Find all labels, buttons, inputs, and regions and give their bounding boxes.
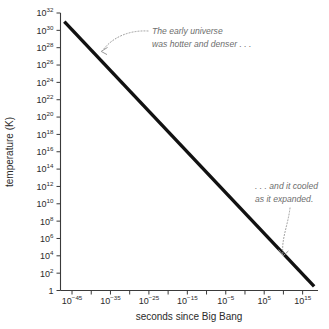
y-tick-label: 1: [48, 286, 53, 296]
temperature-vs-time-log-log-chart: 1032103010281026102410221020101810161014…: [0, 0, 329, 329]
x-axis-title: seconds since Big Bang: [136, 311, 243, 322]
annotation-early-universe-line2: was hotter and denser . . .: [152, 39, 251, 49]
annotation-cooled-expanded-line2: as it expanded.: [255, 194, 313, 204]
annotation-cooled-expanded-line1: . . . and it cooled: [255, 181, 318, 191]
chart-figure: 1032103010281026102410221020101810161014…: [0, 0, 329, 329]
y-axis-title: temperature (K): [4, 117, 15, 187]
annotation-early-universe-line1: The early universe: [152, 26, 223, 36]
